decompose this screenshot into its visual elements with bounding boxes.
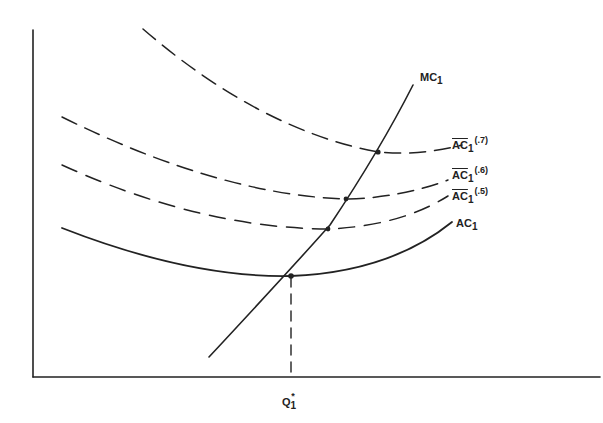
q1-star-label: Q1* xyxy=(282,392,295,411)
q1-star-label-main: Q xyxy=(282,396,291,408)
ac1-label-main: AC xyxy=(456,217,472,229)
ac1-06-label-sub: 1 xyxy=(468,173,474,184)
ac1-07-label-sup: (.7) xyxy=(474,135,488,145)
ac1-06-label: AC1(.6) xyxy=(452,166,488,184)
ac1-06-label-main: AC xyxy=(452,169,468,181)
ac1-curve xyxy=(62,222,452,276)
intersection-ac1-06 xyxy=(344,197,349,202)
intersection-ac1-07 xyxy=(375,149,380,154)
ac1-05-label-sup: (.5) xyxy=(474,186,488,196)
ac1-label-sub: 1 xyxy=(472,221,478,232)
ac1-05-label: AC1(.5) xyxy=(452,187,488,205)
ac1-07-label-sub: 1 xyxy=(468,143,474,154)
ac1-07-label: AC1(.7) xyxy=(452,136,488,154)
ac1-05-label-main: AC xyxy=(452,190,468,202)
ac1-05-curve xyxy=(62,165,448,229)
ac1-07-label-main: AC xyxy=(452,139,468,151)
intersection-ac1-05 xyxy=(326,227,331,232)
cost-curves-diagram xyxy=(0,0,603,423)
mc1-label-main: MC xyxy=(420,71,437,83)
ac1-label: AC1 xyxy=(456,218,477,232)
intersection-ac1 xyxy=(288,273,294,279)
mc1-label-sub: 1 xyxy=(437,75,443,86)
q1-star-label-sup: * xyxy=(291,391,295,401)
ac1-07-curve xyxy=(143,29,462,153)
ac1-06-label-sup: (.6) xyxy=(474,165,488,175)
q1-star-label-sub: 1 xyxy=(291,400,297,411)
mc1-label: MC1 xyxy=(420,72,443,86)
ac1-05-label-sub: 1 xyxy=(468,194,474,205)
